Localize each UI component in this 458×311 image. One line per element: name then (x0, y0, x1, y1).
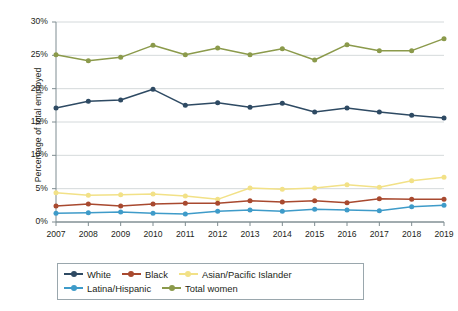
data-point (409, 204, 414, 209)
data-point (215, 201, 220, 206)
data-point (248, 105, 253, 110)
x-tick-label: 2017 (362, 229, 396, 239)
line-chart-svg (0, 0, 451, 250)
x-tick-label: 2016 (330, 229, 364, 239)
data-point (118, 210, 123, 215)
y-tick-label: 10% (16, 149, 48, 159)
y-tick-label: 20% (16, 83, 48, 93)
data-point (409, 197, 414, 202)
data-point (151, 87, 156, 92)
x-tick-label: 2015 (298, 229, 332, 239)
data-point (442, 116, 447, 121)
chart-legend: WhiteBlackAsian/Pacific Islander Latina/… (57, 263, 364, 300)
data-point (183, 52, 188, 57)
data-point (409, 178, 414, 183)
data-point (345, 208, 350, 213)
legend-item-black[interactable]: Black (122, 269, 168, 280)
data-point (377, 110, 382, 115)
y-tick-label: 30% (16, 16, 48, 26)
data-point (151, 192, 156, 197)
data-point (118, 192, 123, 197)
data-point (248, 208, 253, 213)
legend-marker-icon (179, 270, 198, 279)
y-tick-label: 5% (16, 183, 48, 193)
legend-marker-icon (122, 270, 141, 279)
x-tick-label: 2010 (136, 229, 170, 239)
legend-item-latina-hispanic[interactable]: Latina/Hispanic (64, 283, 151, 294)
data-point (183, 103, 188, 108)
x-tick-label: 2008 (71, 229, 105, 239)
data-point (183, 194, 188, 199)
data-point (151, 43, 156, 48)
legend-item-white[interactable]: White (64, 269, 111, 280)
data-point (345, 106, 350, 111)
plot-area: 0%5%10%15%20%25%30% 20072008200920102011… (0, 0, 451, 250)
data-point (442, 36, 447, 41)
data-point (86, 202, 91, 207)
legend-label: White (87, 269, 111, 280)
data-point (86, 58, 91, 63)
data-point (86, 99, 91, 104)
legend-row-2: Latina/HispanicTotal women (64, 281, 357, 295)
data-point (377, 185, 382, 190)
data-point (442, 197, 447, 202)
data-point (183, 212, 188, 217)
data-point (248, 186, 253, 191)
series-line-white (56, 89, 444, 118)
data-point (280, 200, 285, 205)
data-point (442, 203, 447, 208)
data-point (312, 110, 317, 115)
data-point (280, 101, 285, 106)
data-point (54, 190, 59, 195)
data-point (409, 113, 414, 118)
data-point (377, 208, 382, 213)
data-point (280, 209, 285, 214)
y-tick-label: 15% (16, 116, 48, 126)
y-tick-label: 25% (16, 49, 48, 59)
data-point (86, 210, 91, 215)
data-point (248, 52, 253, 57)
data-point (312, 198, 317, 203)
legend-marker-icon (64, 270, 83, 279)
data-point (151, 211, 156, 216)
legend-marker-icon (64, 284, 83, 293)
data-point (312, 207, 317, 212)
legend-label: Latina/Hispanic (87, 283, 151, 294)
data-point (183, 201, 188, 206)
y-tick-label: 0% (16, 216, 48, 226)
data-point (54, 52, 59, 57)
data-point (118, 55, 123, 60)
x-tick-label: 2018 (395, 229, 429, 239)
data-point (345, 200, 350, 205)
data-point (54, 211, 59, 216)
legend-label: Black (145, 269, 168, 280)
data-point (280, 187, 285, 192)
legend-label: Total women (185, 283, 238, 294)
x-tick-label: 2009 (104, 229, 138, 239)
series-line-total-women (56, 39, 444, 61)
data-point (345, 182, 350, 187)
x-tick-label: 2014 (265, 229, 299, 239)
legend-label: Asian/Pacific Islander (202, 269, 292, 280)
data-point (86, 193, 91, 198)
data-point (118, 204, 123, 209)
data-point (215, 209, 220, 214)
data-point (280, 46, 285, 51)
data-point (151, 202, 156, 207)
x-tick-label: 2007 (39, 229, 73, 239)
data-point (409, 48, 414, 53)
x-tick-label: 2012 (201, 229, 235, 239)
data-point (54, 204, 59, 209)
legend-item-total-women[interactable]: Total women (162, 283, 238, 294)
data-point (312, 186, 317, 191)
data-point (442, 175, 447, 180)
legend-item-asian-pacific-islander[interactable]: Asian/Pacific Islander (179, 269, 292, 280)
data-point (215, 100, 220, 105)
legend-row-1: WhiteBlackAsian/Pacific Islander (64, 267, 357, 281)
data-point (54, 106, 59, 111)
data-point (312, 58, 317, 63)
x-tick-label: 2019 (427, 229, 458, 239)
data-point (377, 196, 382, 201)
data-point (377, 48, 382, 53)
